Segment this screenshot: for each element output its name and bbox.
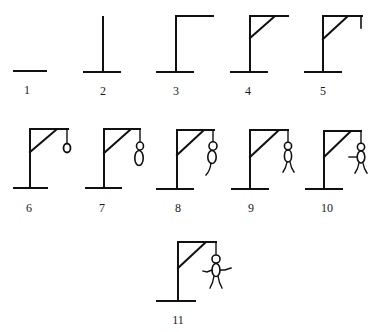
body <box>357 151 365 163</box>
stage-9: 9 <box>232 130 294 215</box>
stage-label: 6 <box>26 201 32 215</box>
stage-8: 8 <box>157 130 217 215</box>
gallows-brace <box>30 130 56 152</box>
gallows-brace <box>177 131 203 155</box>
stage-2: 2 <box>84 17 120 98</box>
body <box>212 264 220 277</box>
stage-5: 5 <box>305 16 362 98</box>
head <box>212 255 220 263</box>
body <box>135 151 143 166</box>
leg-right <box>218 276 222 288</box>
head <box>209 142 217 150</box>
gallows-brace <box>250 131 278 157</box>
stage-label: 9 <box>248 201 254 215</box>
gallows-brace <box>250 17 274 38</box>
leg-right <box>363 163 367 173</box>
gallows-brace <box>104 130 130 153</box>
stage-11: 11 <box>157 242 231 327</box>
stage-label: 3 <box>173 84 179 98</box>
body <box>208 151 216 164</box>
stage-7: 7 <box>86 129 144 215</box>
stage-6: 6 <box>14 129 71 215</box>
head <box>137 142 144 150</box>
stage-label: 11 <box>172 313 184 327</box>
head <box>284 142 291 150</box>
stage-label: 8 <box>175 201 181 215</box>
arm-right <box>220 268 231 270</box>
leg-left <box>283 162 287 172</box>
arm-left <box>203 270 212 272</box>
gallows-brace <box>324 132 350 157</box>
hangman-stages-diagram: 1 2 3 4 5 6 <box>0 0 375 332</box>
stage-1: 1 <box>14 71 46 97</box>
stage-label: 1 <box>24 83 30 97</box>
stage-label: 5 <box>320 84 326 98</box>
stage-label: 7 <box>99 201 105 215</box>
stage-4: 4 <box>231 16 288 98</box>
body <box>284 150 291 162</box>
gallows-brace <box>323 17 347 39</box>
leg-right <box>290 162 294 172</box>
head <box>357 143 364 151</box>
stage-10: 10 <box>306 131 367 215</box>
leg-left <box>210 276 214 288</box>
leg-left <box>206 163 211 175</box>
gallows-brace <box>178 243 205 268</box>
head <box>64 144 71 153</box>
leg-left <box>355 163 359 173</box>
stage-label: 4 <box>245 84 251 98</box>
stage-3: 3 <box>157 16 213 98</box>
stage-label: 2 <box>100 84 106 98</box>
stage-label: 10 <box>321 201 333 215</box>
